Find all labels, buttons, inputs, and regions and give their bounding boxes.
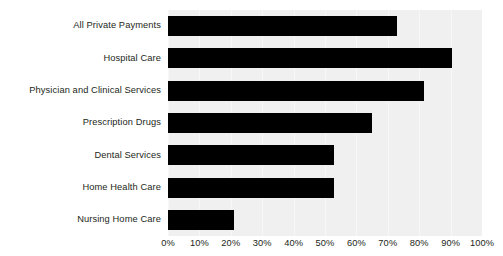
bar: [168, 81, 424, 101]
bar: [168, 210, 234, 230]
x-axis: 0%10%20%30%40%50%60%70%80%90%100%: [168, 239, 482, 253]
x-tick-label: 30%: [253, 239, 272, 248]
x-tick-label: 40%: [284, 239, 303, 248]
category-label: Nursing Home Care: [77, 215, 161, 224]
bar: [168, 145, 334, 165]
category-label-row: Nursing Home Care: [0, 204, 166, 236]
category-label-row: Hospital Care: [0, 42, 166, 74]
category-label: Home Health Care: [82, 183, 161, 192]
bar: [168, 178, 334, 198]
category-label-row: Dental Services: [0, 139, 166, 171]
category-axis: All Private PaymentsHospital CarePhysici…: [0, 10, 166, 236]
bar-row: [168, 171, 482, 203]
plot-area: [168, 10, 482, 236]
bar: [168, 48, 452, 68]
x-tick-label: 50%: [316, 239, 335, 248]
bar-chart: All Private PaymentsHospital CarePhysici…: [0, 0, 503, 256]
bar-row: [168, 10, 482, 42]
category-label-row: Home Health Care: [0, 171, 166, 203]
bars-layer: [168, 10, 482, 236]
x-tick-label: 90%: [441, 239, 460, 248]
x-tick-label: 60%: [347, 239, 366, 248]
x-tick-label: 70%: [378, 239, 397, 248]
x-tick-label: 20%: [221, 239, 240, 248]
x-tick-label: 0%: [161, 239, 175, 248]
category-label: All Private Payments: [73, 21, 161, 30]
category-label: Prescription Drugs: [83, 118, 161, 127]
bar-row: [168, 204, 482, 236]
bar: [168, 113, 372, 133]
category-label: Physician and Clinical Services: [29, 86, 161, 95]
category-label: Hospital Care: [103, 54, 161, 63]
category-label: Dental Services: [94, 151, 161, 160]
bar-row: [168, 139, 482, 171]
category-label-row: Prescription Drugs: [0, 107, 166, 139]
bar-row: [168, 107, 482, 139]
x-tick-label: 80%: [410, 239, 429, 248]
bar-row: [168, 42, 482, 74]
x-tick-label: 10%: [190, 239, 209, 248]
category-label-row: All Private Payments: [0, 10, 166, 42]
category-label-row: Physician and Clinical Services: [0, 75, 166, 107]
bar: [168, 16, 397, 36]
bar-row: [168, 75, 482, 107]
x-tick-label: 100%: [470, 239, 494, 248]
